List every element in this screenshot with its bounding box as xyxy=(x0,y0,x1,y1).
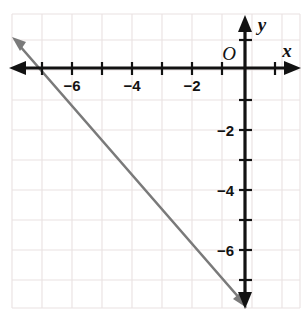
origin-label: O xyxy=(222,43,236,64)
graph-canvas: −6 −4 −2 −2 −4 −6 O x y xyxy=(0,0,308,328)
y-tick-label-neg2: −2 xyxy=(217,122,234,139)
x-axis xyxy=(9,61,301,75)
y-tick-label-neg4: −4 xyxy=(217,182,235,199)
y-axis xyxy=(238,15,252,309)
grid-lines xyxy=(12,14,300,308)
coordinate-plane-figure: −6 −4 −2 −2 −4 −6 O x y xyxy=(0,0,308,328)
x-tick-label-neg4: −4 xyxy=(123,77,141,94)
x-tick-label-neg6: −6 xyxy=(63,77,80,94)
y-tick-label-neg6: −6 xyxy=(217,242,234,259)
x-tick-label-neg2: −2 xyxy=(183,77,200,94)
y-axis-label: y xyxy=(256,14,267,35)
x-axis-label: x xyxy=(281,40,292,61)
